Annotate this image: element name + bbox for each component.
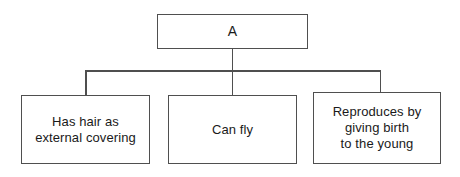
tree-node-child-1-label: Has hair as external covering	[35, 114, 136, 146]
tree-node-root: A	[157, 14, 308, 49]
connector-drop-to-child-2	[232, 70, 234, 96]
connector-drop-to-child-1	[85, 70, 87, 96]
connector-root-stem	[232, 49, 234, 71]
tree-node-root-label: A	[228, 23, 237, 40]
tree-node-child-2-label: Can fly	[212, 122, 253, 138]
tree-node-child-3: Reproduces by giving birth to the young	[313, 92, 441, 164]
tree-diagram: A Has hair as external covering Can fly …	[0, 0, 460, 177]
tree-node-child-1: Has hair as external covering	[21, 95, 150, 164]
tree-node-child-3-label: Reproduces by giving birth to the young	[333, 104, 422, 152]
connector-drop-to-child-3	[380, 70, 382, 93]
tree-node-child-2: Can fly	[168, 95, 297, 164]
